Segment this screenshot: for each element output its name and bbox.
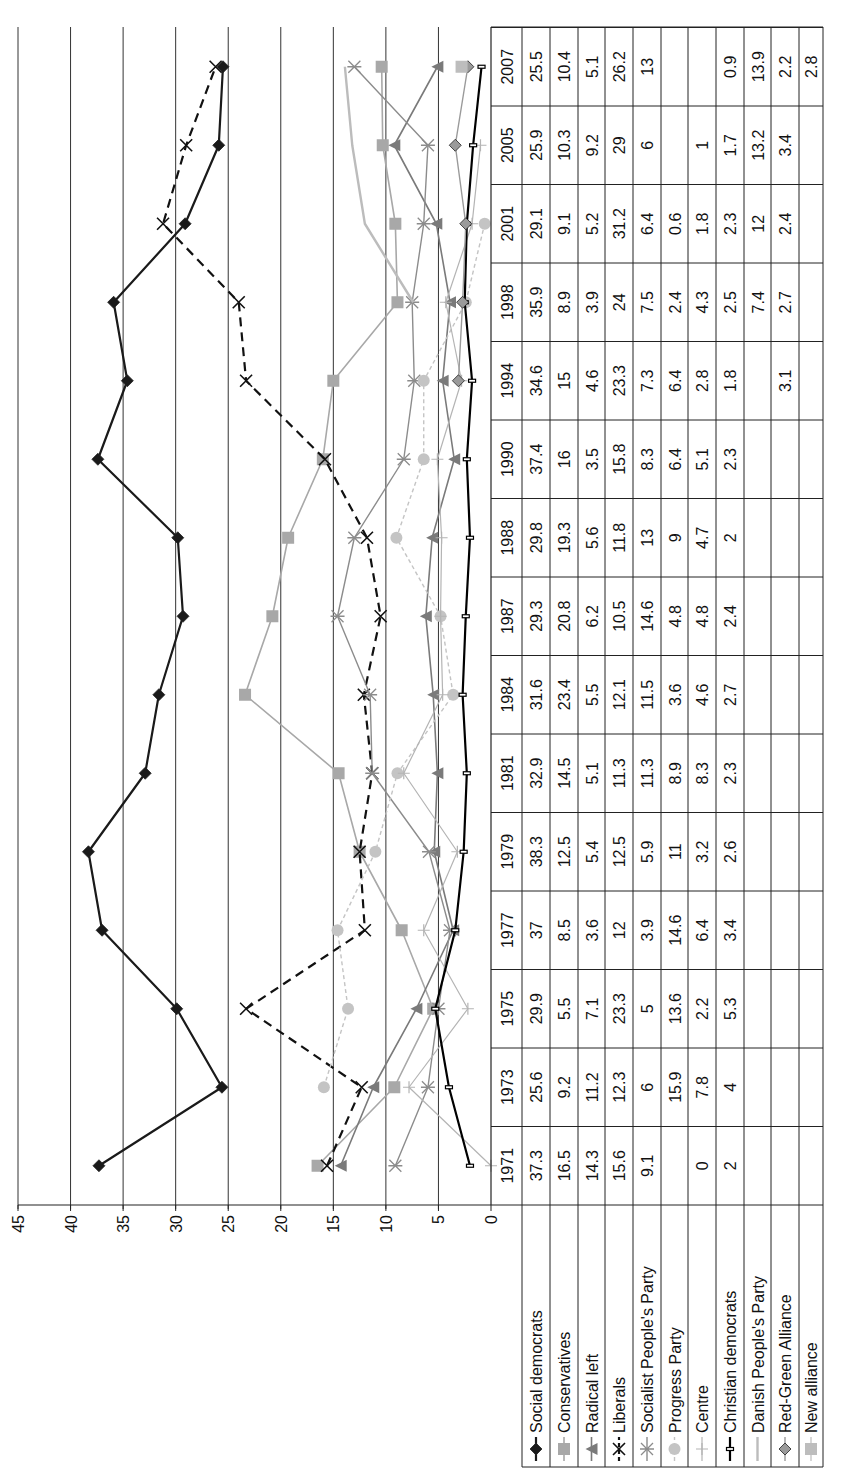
legend-entry: Conservatives — [556, 1332, 573, 1461]
table-cell: 1.8 — [722, 370, 739, 392]
table-cell: 25.5 — [528, 51, 545, 82]
table-cell: 32.9 — [528, 758, 545, 789]
table-cell: 3.6 — [584, 919, 601, 941]
diamond-marker — [153, 689, 165, 701]
table-cell: 24 — [611, 293, 628, 311]
table-cell: 8.9 — [667, 762, 684, 784]
square-marker — [805, 1443, 817, 1455]
table-cell: 5.1 — [584, 762, 601, 784]
series-line — [88, 67, 223, 1166]
series-social-democrats — [82, 61, 229, 1172]
table-cell: 4.6 — [694, 684, 711, 706]
table-cell: 3.4 — [722, 919, 739, 941]
x-marker — [359, 924, 371, 936]
series-danish-people-s-party — [345, 67, 413, 303]
table-year-header: 2007 — [499, 49, 516, 85]
table-cell: 13 — [639, 58, 656, 76]
table-cell: 2 — [722, 533, 739, 542]
x-marker — [180, 139, 192, 151]
legend-label: Danish People's Party — [750, 1276, 767, 1433]
table-cell: 3.9 — [584, 291, 601, 313]
table-cell: 10.4 — [556, 51, 573, 82]
table-cell: 13.6 — [667, 993, 684, 1024]
table-cell: 29.9 — [528, 993, 545, 1024]
axis-tick-label: 15 — [325, 1215, 342, 1233]
table-cell: 8.5 — [556, 919, 573, 941]
square-marker — [391, 296, 403, 308]
table-year-header: 1987 — [499, 598, 516, 634]
table-cell: 9.2 — [584, 134, 601, 156]
table-cell: 7.8 — [694, 1076, 711, 1098]
axis-tick-label: 35 — [115, 1215, 132, 1233]
table-cell: 7.5 — [639, 291, 656, 313]
table-cell: 2 — [722, 1161, 739, 1170]
square-marker — [282, 532, 294, 544]
circle-marker — [342, 1003, 354, 1015]
table-cell: 26.2 — [611, 51, 628, 82]
plus-marker — [431, 453, 443, 465]
axis-tick-label: 10 — [378, 1215, 395, 1233]
dash-marker — [727, 1448, 734, 1451]
table-cell: 5.3 — [722, 998, 739, 1020]
table-cell: 29.1 — [528, 208, 545, 239]
table-cell: 37 — [528, 921, 545, 939]
table-cell: 7.4 — [750, 291, 767, 313]
diamond-marker — [177, 610, 189, 622]
table-cell: 5.6 — [584, 527, 601, 549]
table-year-header: 1984 — [499, 677, 516, 713]
table-cell: 15.6 — [611, 1150, 628, 1181]
table-cell: 23.3 — [611, 993, 628, 1024]
table-cell: 12.3 — [611, 1072, 628, 1103]
table-year-header: 1981 — [499, 755, 516, 791]
table-cell: 14.6 — [639, 601, 656, 632]
table-cell: 16 — [556, 450, 573, 468]
circle-marker — [418, 375, 430, 387]
axis-tick-label: 0 — [483, 1215, 500, 1224]
table-cell: 2.5 — [722, 291, 739, 313]
table-cell: 1.8 — [694, 213, 711, 235]
table-year-header: 1979 — [499, 834, 516, 870]
table-cell: 15 — [556, 372, 573, 390]
legend-entry: Red-Green Alliance — [777, 1294, 794, 1461]
table-year-header: 1971 — [499, 1148, 516, 1184]
legend-label: Christian democrats — [722, 1291, 739, 1433]
table-cell: 2.6 — [722, 841, 739, 863]
table-cell: 0.6 — [667, 213, 684, 235]
square-marker — [396, 924, 408, 936]
circle-marker — [418, 453, 430, 465]
x-marker — [240, 1003, 252, 1015]
table-cell: 0.9 — [722, 56, 739, 78]
series-line — [338, 67, 450, 1166]
diamond-marker — [93, 1160, 105, 1172]
table-cell: 5.4 — [584, 841, 601, 863]
x-marker — [157, 218, 169, 230]
legend-entry: Socialist People's Party — [639, 1266, 656, 1461]
circle-marker — [318, 1081, 330, 1093]
table-cell: 37.4 — [528, 444, 545, 475]
axis-tick-label: 40 — [63, 1215, 80, 1233]
axis-tick-label: 30 — [168, 1215, 185, 1233]
table-cell: 2.7 — [722, 684, 739, 706]
legend-keys: Social democratsConservativesRadical lef… — [528, 1266, 820, 1461]
dash-marker — [445, 1086, 452, 1089]
table-cell: 13.2 — [750, 130, 767, 161]
table-cell: 12 — [611, 921, 628, 939]
legend-entry: Progress Party — [667, 1327, 684, 1461]
diamond-marker — [779, 1443, 791, 1455]
table-year-header: 1988 — [499, 520, 516, 556]
table-cell: 8.3 — [694, 762, 711, 784]
dash-marker — [452, 929, 459, 932]
table-cell: 9.2 — [556, 1076, 573, 1098]
table-cell: 25.6 — [528, 1072, 545, 1103]
star-marker — [347, 61, 361, 73]
star-marker — [347, 532, 361, 544]
legend-entry: Radical left — [584, 1353, 601, 1461]
data-table: 1971197319751977197919811984198719881990… — [491, 27, 823, 1467]
table-cell: 14.5 — [556, 758, 573, 789]
axis-tick-label: 45 — [10, 1215, 27, 1233]
table-year-header: 1973 — [499, 1069, 516, 1105]
table-cell: 4 — [722, 1083, 739, 1092]
legend-entry: Liberals — [611, 1377, 628, 1461]
table-cell: 11.2 — [584, 1072, 601, 1102]
table-cell: 2.4 — [667, 291, 684, 313]
